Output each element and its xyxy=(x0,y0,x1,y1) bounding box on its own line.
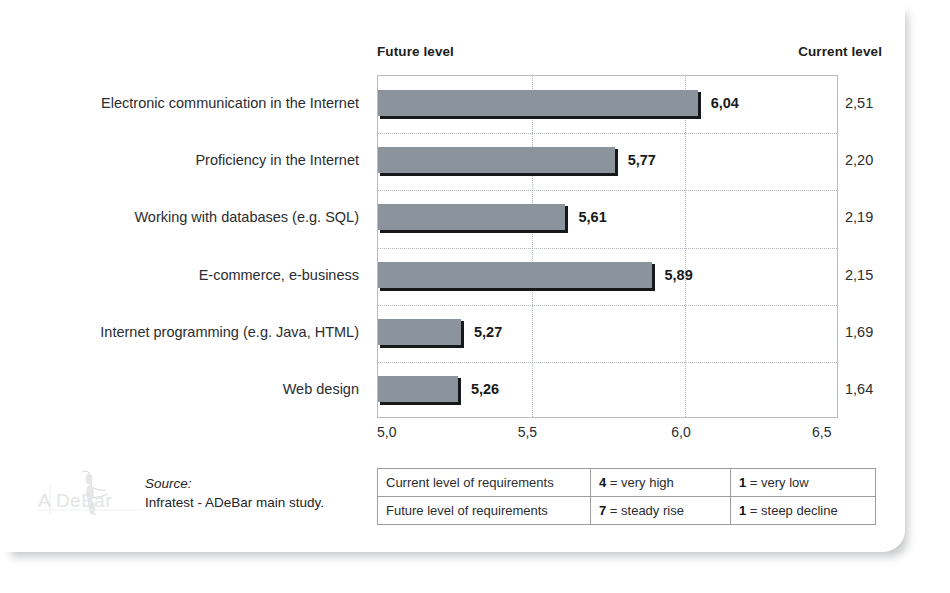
bar-row: 5,89 xyxy=(378,248,837,305)
source-label: Source: xyxy=(145,474,324,493)
category-label: Proficiency in the Internet xyxy=(7,152,359,168)
bar-future-level[interactable] xyxy=(378,319,461,345)
legend-low-cell: 1 = very low xyxy=(731,469,876,497)
bar-shadow-bottom xyxy=(380,345,463,348)
legend-high-cell: 7 = steady rise xyxy=(591,497,731,525)
column-header-current-level: Current level xyxy=(793,44,882,59)
current-level-value: 1,69 xyxy=(845,324,901,340)
bar-group xyxy=(378,319,461,348)
x-tick-label: 5,5 xyxy=(518,424,537,440)
legend-criterion-cell: Current level of requirements xyxy=(378,469,591,497)
category-label: Web design xyxy=(7,381,359,397)
legend-high-cell: 4 = very high xyxy=(591,469,731,497)
source-text: Infratest - ADeBar main study. xyxy=(145,493,324,512)
bar-shadow-right xyxy=(615,149,618,176)
bar-shadow-right xyxy=(458,378,461,405)
bar-future-level[interactable] xyxy=(378,90,698,116)
x-tick-label: 5,0 xyxy=(377,424,396,440)
bar-shadow-bottom xyxy=(380,116,700,119)
current-level-value: 1,64 xyxy=(845,381,901,397)
legend-low-number: 1 xyxy=(739,475,746,490)
category-label: Internet programming (e.g. Java, HTML) xyxy=(7,324,359,340)
legend-body: Current level of requirements4 = very hi… xyxy=(378,469,876,525)
legend-low-cell: 1 = steep decline xyxy=(731,497,876,525)
bar-group xyxy=(378,204,565,233)
bar-group xyxy=(378,147,615,176)
legend-high-number: 7 xyxy=(599,503,606,518)
bar-future-level[interactable] xyxy=(378,262,652,288)
current-level-value: 2,19 xyxy=(845,209,901,225)
column-header-future-level: Future level xyxy=(377,44,454,59)
bar-future-level[interactable] xyxy=(378,204,565,230)
legend-criterion-cell: Future level of requirements xyxy=(378,497,591,525)
current-level-values: 2,512,202,192,151,691,64 xyxy=(845,75,901,418)
bar-value-label: 5,77 xyxy=(628,152,656,168)
bar-row: 5,27 xyxy=(378,305,837,362)
bar-shadow-bottom xyxy=(380,402,460,405)
bar-shadow-right xyxy=(461,321,464,348)
plot-area: 6,045,775,615,895,275,26 xyxy=(377,75,838,418)
bar-value-label: 5,89 xyxy=(665,267,693,283)
bar-value-label: 5,26 xyxy=(471,381,499,397)
bar-future-level[interactable] xyxy=(378,147,615,173)
source-block: Source: Infratest - ADeBar main study. xyxy=(145,474,324,512)
bar-group xyxy=(378,376,458,405)
bar-value-label: 6,04 xyxy=(711,95,739,111)
bar-shadow-bottom xyxy=(380,288,654,291)
bar-group xyxy=(378,90,698,119)
category-label: Electronic communication in the Internet xyxy=(7,95,359,111)
legend-row: Current level of requirements4 = very hi… xyxy=(378,469,876,497)
legend-table: Current level of requirements4 = very hi… xyxy=(377,468,876,525)
category-label: Working with databases (e.g. SQL) xyxy=(7,209,359,225)
bar-shadow-right xyxy=(652,264,655,291)
bar-value-label: 5,27 xyxy=(474,324,502,340)
x-tick-label: 6,5 xyxy=(812,424,831,440)
bar-shadow-right xyxy=(698,92,701,119)
category-label: E-commerce, e-business xyxy=(7,267,359,283)
adebar-wordmark: A DeBar xyxy=(38,490,112,512)
x-tick-label: 6,0 xyxy=(671,424,690,440)
bar-shadow-right xyxy=(565,206,568,233)
adebar-logo: A DeBar xyxy=(38,470,158,522)
x-axis-tick-labels: 5,05,56,06,5 xyxy=(377,424,838,444)
bar-group xyxy=(378,262,652,291)
current-level-value: 2,51 xyxy=(845,95,901,111)
chart-card: Future level Current level Electronic co… xyxy=(0,0,905,552)
bar-row: 5,77 xyxy=(378,133,837,190)
bar-row: 5,61 xyxy=(378,190,837,247)
current-level-value: 2,15 xyxy=(845,267,901,283)
bar-row: 6,04 xyxy=(378,76,837,133)
bar-value-label: 5,61 xyxy=(578,209,606,225)
legend-low-number: 1 xyxy=(739,503,746,518)
current-level-value: 2,20 xyxy=(845,152,901,168)
bar-shadow-bottom xyxy=(380,230,567,233)
legend-high-number: 4 xyxy=(599,475,606,490)
bar-shadow-bottom xyxy=(380,173,617,176)
bar-future-level[interactable] xyxy=(378,376,458,402)
legend-row: Future level of requirements7 = steady r… xyxy=(378,497,876,525)
category-axis-labels: Electronic communication in the Internet… xyxy=(7,75,359,418)
bar-row: 5,26 xyxy=(378,362,837,419)
